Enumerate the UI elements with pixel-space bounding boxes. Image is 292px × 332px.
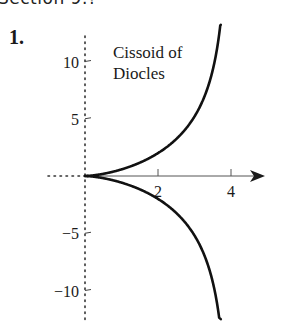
x-tick-label: 4 [227,183,235,200]
curve-upper [85,25,221,176]
chart-plot: 24 105−5−10 [0,0,292,332]
y-tick [85,61,91,62]
curve-lower [85,176,221,319]
y-tick-label: −10 [54,283,79,300]
y-tick [85,232,91,233]
y-tick [85,118,91,119]
y-tick-label: 10 [63,54,79,71]
y-tick-label: −5 [62,225,79,242]
y-tick [85,290,91,291]
curve-series [85,25,221,319]
y-tick-label: 5 [71,111,79,128]
x-ticks: 24 [154,169,235,200]
